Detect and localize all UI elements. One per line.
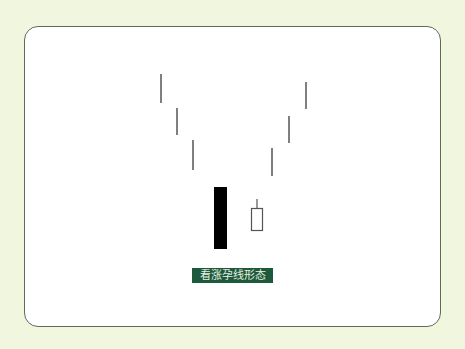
uptrend-lines — [272, 82, 306, 176]
bearish-candle-body — [214, 187, 227, 249]
downtrend-lines — [161, 74, 193, 170]
pattern-title-label: 看涨孕线形态 — [192, 268, 273, 283]
bullish-candle-body — [252, 209, 263, 231]
candlestick-diagram — [0, 0, 465, 349]
